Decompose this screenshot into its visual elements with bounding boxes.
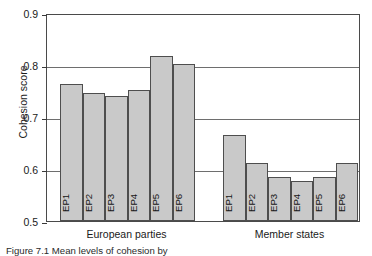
group-label: European parties (59, 228, 194, 240)
y-axis-tick-mark (42, 223, 47, 224)
bar-category-label: EP1 (60, 187, 83, 219)
y-axis-tick-label: 0.5 (8, 217, 38, 227)
bar-category-label: EP2 (246, 187, 269, 219)
bar-category-label: EP6 (173, 187, 196, 219)
bar-category-label: EP5 (313, 187, 336, 219)
bar-category-label: EP2 (83, 187, 106, 219)
bar-category-label: EP3 (105, 187, 128, 219)
y-axis-tick-label: 0.8 (8, 61, 38, 71)
group-label: Member states (222, 228, 357, 240)
y-axis-tick-label: 0.9 (8, 9, 38, 19)
bar-category-label: EP4 (128, 187, 151, 219)
y-axis-tick-label: 0.7 (8, 113, 38, 123)
y-axis-title: Cohesion score (17, 32, 29, 172)
y-axis-tick-label: 0.6 (8, 165, 38, 175)
plot-area: EP1EP2EP3EP4EP5EP6EP1EP2EP3EP4EP5EP6 (46, 14, 360, 222)
bar-category-label: EP1 (223, 187, 246, 219)
figure-caption: Figure 7.1 Mean levels of cohesion by (6, 245, 366, 256)
bar-category-label: EP5 (150, 187, 173, 219)
bar-category-label: EP3 (268, 187, 291, 219)
bar-category-label: EP4 (291, 187, 314, 219)
bar-series: EP1EP2EP3EP4EP5EP6EP1EP2EP3EP4EP5EP6 (47, 15, 359, 221)
bar-category-label: EP6 (336, 187, 359, 219)
